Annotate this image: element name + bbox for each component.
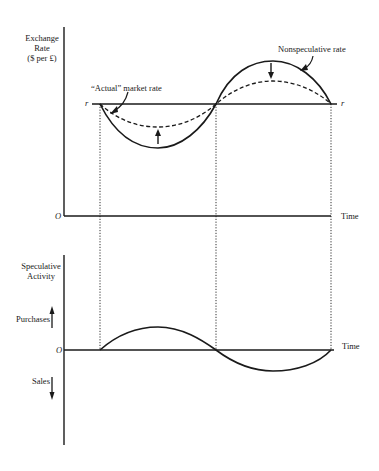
actual-rate-label: “Actual” market rate: [91, 83, 162, 93]
top-time-label: Time: [341, 211, 359, 221]
sales-arrow-icon: [50, 377, 55, 400]
speculative-activity-curve: [100, 327, 331, 371]
y-label-line-2: Rate: [22, 43, 62, 53]
y-label-line-3: ($ per £): [22, 53, 62, 63]
bottom-time-label: Time: [342, 341, 360, 351]
y-label-line-1: Exchange: [22, 33, 62, 43]
bottom-y-axis-label: Speculative Activity: [20, 261, 62, 281]
purchases-label: Purchases: [16, 314, 50, 324]
sales-label: Sales: [32, 376, 50, 386]
up-arrow-icon: [155, 129, 161, 144]
diagram-canvas: [0, 0, 379, 471]
speculative-label-line-2: Activity: [20, 271, 62, 281]
r-label-right: r: [341, 98, 344, 108]
top-origin-label: O: [55, 211, 61, 221]
top-y-axis-label: Exchange Rate ($ per £): [22, 33, 62, 63]
nonspeculative-pointer-arrowhead: [300, 64, 308, 71]
speculative-label-line-1: Speculative: [20, 261, 62, 271]
nonspeculative-rate-label: Nonspeculative rate: [278, 44, 346, 54]
bottom-origin-label: O: [56, 345, 62, 355]
purchases-arrow-icon: [50, 306, 55, 328]
r-label-left: r: [85, 98, 88, 108]
down-arrow-icon: [268, 63, 274, 79]
actual-rate-pointer-arrowhead: [110, 106, 118, 114]
